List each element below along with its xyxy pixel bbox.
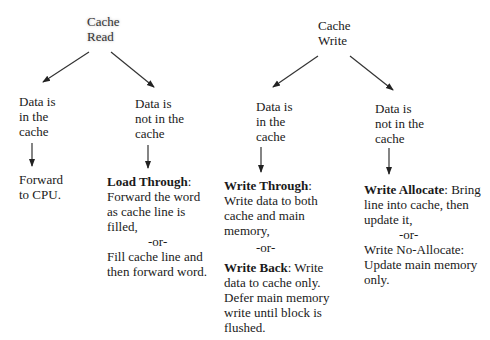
arrow-write-left bbox=[273, 56, 318, 87]
read-miss-policy: Load Through:Forward the wordas cache li… bbox=[107, 174, 207, 279]
write-miss-policy: Write Allocate: Bringline into cache, th… bbox=[364, 182, 481, 287]
read-hit-condition: Data isin thecache bbox=[19, 94, 55, 139]
cache-write-node: CacheWrite bbox=[318, 18, 350, 48]
write-miss-condition: Data isnot in thecache bbox=[375, 101, 424, 146]
arrow-read-hit bbox=[43, 52, 89, 82]
read-miss-condition: Data isnot in thecache bbox=[135, 96, 184, 141]
arrow-write-right bbox=[350, 56, 393, 90]
write-allocate-title: Write Allocate bbox=[364, 182, 444, 197]
load-through-title: Load Through bbox=[107, 174, 188, 189]
read-hit-action: Forwardto CPU. bbox=[19, 172, 63, 202]
write-through-title: Write Through bbox=[224, 178, 308, 193]
write-hit-policy: Write Through:Write data to bothcache an… bbox=[224, 178, 329, 335]
cache-read-node: CacheRead bbox=[87, 14, 119, 44]
write-back-title: Write Back bbox=[224, 260, 288, 275]
write-hit-condition: Data isin thecache bbox=[256, 99, 292, 144]
arrow-read-miss bbox=[111, 52, 154, 87]
